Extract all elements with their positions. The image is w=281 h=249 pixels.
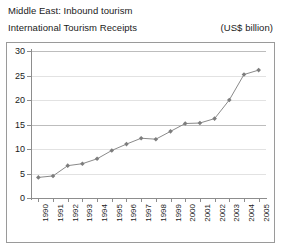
x-tick-mark-1998 [156, 198, 157, 202]
x-tick-mark-2000 [185, 198, 186, 202]
x-tick-label-2002: 2002 [219, 204, 227, 222]
x-tick-label-2005: 2005 [263, 204, 271, 222]
x-tick-mark-2003 [229, 198, 230, 202]
x-tick-label-2004: 2004 [248, 204, 256, 222]
chart-units-label: (US$ billion) [221, 19, 273, 36]
x-tick-label-1994: 1994 [101, 204, 109, 222]
y-tick-mark-25 [27, 76, 31, 77]
y-tick-label-0: 0 [8, 194, 25, 203]
gridline-y-20 [31, 100, 266, 101]
x-tick-label-1991: 1991 [57, 204, 65, 222]
x-tick-mark-2002 [215, 198, 216, 202]
y-axis-line [31, 49, 32, 200]
y-tick-label-30: 30 [8, 47, 25, 56]
x-tick-mark-2004 [244, 198, 245, 202]
x-tick-mark-1999 [171, 198, 172, 202]
x-tick-label-1995: 1995 [116, 204, 124, 222]
y-tick-mark-15 [27, 125, 31, 126]
chart-title-line-1: Middle East: Inbound tourism [8, 2, 273, 19]
x-tick-mark-1994 [97, 198, 98, 202]
x-tick-label-2003: 2003 [233, 204, 241, 222]
x-tick-mark-1993 [82, 198, 83, 202]
x-tick-mark-1992 [68, 198, 69, 202]
x-tick-label-1993: 1993 [86, 204, 94, 222]
gridline-y-10 [31, 149, 266, 150]
gridline-y-5 [31, 174, 266, 175]
chart-title-line-2-row: International Tourism Receipts (US$ bill… [8, 19, 273, 36]
y-tick-mark-5 [27, 174, 31, 175]
gridline-y-25 [31, 76, 266, 77]
x-tick-label-2001: 2001 [204, 204, 212, 222]
gridline-y-15 [31, 125, 266, 126]
x-tick-mark-2001 [200, 198, 201, 202]
y-tick-label-15: 15 [8, 121, 25, 130]
x-tick-label-1992: 1992 [72, 204, 80, 222]
x-tick-mark-2005 [259, 198, 260, 202]
x-tick-label-1998: 1998 [160, 204, 168, 222]
y-tick-label-10: 10 [8, 145, 25, 154]
x-tick-mark-1997 [141, 198, 142, 202]
x-tick-label-2000: 2000 [189, 204, 197, 222]
y-tick-mark-30 [27, 51, 31, 52]
y-tick-label-25: 25 [8, 72, 25, 81]
chart-figure: Middle East: Inbound tourism Internation… [0, 0, 281, 249]
y-tick-label-20: 20 [8, 96, 25, 105]
x-tick-mark-1990 [38, 198, 39, 202]
chart-header: Middle East: Inbound tourism Internation… [8, 2, 273, 38]
gridline-y-30 [31, 51, 266, 52]
x-tick-label-1999: 1999 [175, 204, 183, 222]
x-axis-line [31, 198, 267, 199]
chart-title-line-2: International Tourism Receipts [8, 22, 137, 33]
x-tick-mark-1996 [126, 198, 127, 202]
x-tick-mark-1991 [53, 198, 54, 202]
y-tick-mark-0 [27, 198, 31, 199]
y-tick-mark-10 [27, 149, 31, 150]
x-tick-label-1997: 1997 [145, 204, 153, 222]
x-tick-mark-1995 [112, 198, 113, 202]
plot-area [31, 51, 266, 198]
y-tick-label-5: 5 [8, 170, 25, 179]
y-tick-mark-20 [27, 100, 31, 101]
x-tick-label-1990: 1990 [42, 204, 50, 222]
x-tick-label-1996: 1996 [130, 204, 138, 222]
